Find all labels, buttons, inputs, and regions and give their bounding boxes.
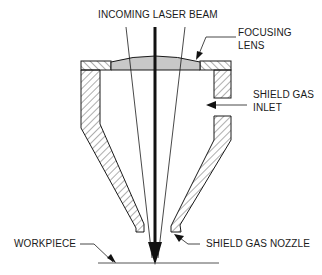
laser-welding-head-diagram: INCOMING LASER BEAM FOCUSING LENS SHIELD…	[0, 0, 322, 275]
right-nozzle-wall	[171, 116, 231, 232]
title-incoming-laser-beam: INCOMING LASER BEAM	[98, 9, 218, 21]
label-shield-gas-inlet-1: SHIELD GAS	[253, 89, 314, 101]
shield-gas-nozzle-leader	[180, 238, 200, 244]
right-top-plate	[200, 61, 231, 70]
left-top-plate	[81, 61, 111, 70]
left-nozzle-wall	[81, 70, 144, 232]
shield-gas-nozzle-arrow-icon	[174, 234, 184, 242]
shield-gas-inlet-arrow-icon	[206, 101, 216, 109]
label-workpiece: WORKPIECE	[14, 238, 76, 250]
right-upper-wall	[214, 70, 231, 98]
beam-arrowhead-icon	[148, 242, 162, 265]
label-focusing-lens-2: LENS	[238, 40, 265, 52]
diagram-canvas	[0, 0, 322, 275]
focusing-lens-leader	[199, 37, 236, 54]
label-shield-gas-nozzle: SHIELD GAS NOZZLE	[206, 238, 310, 250]
label-focusing-lens-1: FOCUSING	[238, 27, 292, 39]
focusing-lens-arrow-icon	[196, 51, 203, 60]
label-shield-gas-inlet-2: INLET	[253, 102, 282, 114]
workpiece-arrow-icon	[107, 254, 116, 263]
workpiece-leader	[80, 244, 113, 262]
